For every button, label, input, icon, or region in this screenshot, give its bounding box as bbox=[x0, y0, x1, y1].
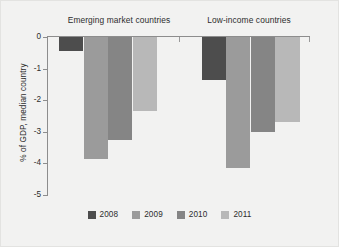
bar-2010-group-2 bbox=[251, 37, 275, 132]
legend-swatch-icon bbox=[221, 211, 229, 219]
y-tick--2: -2 bbox=[47, 100, 51, 101]
bar-2008-group-1 bbox=[59, 37, 83, 51]
y-tick--1: -1 bbox=[47, 69, 51, 70]
bar-2008-group-2 bbox=[202, 37, 226, 80]
y-tick-label: -5 bbox=[34, 190, 41, 199]
legend-swatch-icon bbox=[177, 211, 185, 219]
y-axis-label: % of GDP, median country bbox=[19, 43, 28, 183]
y-tick-mark bbox=[43, 69, 47, 70]
y-tick-label: -1 bbox=[34, 64, 41, 73]
y-tick--3: -3 bbox=[47, 132, 51, 133]
plot-area: 0-1-2-3-4-5 bbox=[47, 37, 310, 195]
legend-item-2011[interactable]: 2011 bbox=[221, 210, 251, 219]
legend-label: 2009 bbox=[144, 210, 163, 219]
y-tick-mark bbox=[43, 100, 47, 101]
bar-2011-group-2 bbox=[275, 37, 299, 122]
y-tick-mark bbox=[43, 132, 47, 133]
group-title-low-income-countries: Low-income countries bbox=[188, 15, 310, 25]
legend-label: 2010 bbox=[189, 210, 208, 219]
legend-swatch-icon bbox=[132, 211, 140, 219]
y-tick-label: -4 bbox=[34, 158, 41, 167]
legend-swatch-icon bbox=[88, 211, 96, 219]
chart-legend: 2008200920102011 bbox=[0, 210, 339, 219]
x-axis-tick-2 bbox=[309, 37, 310, 42]
bar-2009-group-2 bbox=[226, 37, 250, 168]
y-tick-mark bbox=[43, 195, 47, 196]
y-tick--4: -4 bbox=[47, 163, 51, 164]
y-tick-mark bbox=[43, 163, 47, 164]
legend-item-2008[interactable]: 2008 bbox=[88, 210, 119, 219]
legend-label: 2011 bbox=[233, 210, 251, 219]
y-tick--5: -5 bbox=[47, 195, 51, 196]
legend-item-2009[interactable]: 2009 bbox=[132, 210, 163, 219]
bar-2011-group-1 bbox=[133, 37, 157, 111]
y-tick-mark bbox=[43, 37, 47, 38]
bar-2010-group-1 bbox=[108, 37, 132, 140]
group-title-emerging-market-countries: Emerging market countries bbox=[57, 15, 181, 25]
bar-2009-group-1 bbox=[84, 37, 108, 159]
y-tick-label: 0 bbox=[36, 32, 41, 41]
y-tick-label: -3 bbox=[34, 127, 41, 136]
y-tick-label: -2 bbox=[34, 95, 41, 104]
legend-label: 2008 bbox=[100, 210, 119, 219]
x-axis-tick-1 bbox=[179, 37, 180, 42]
y-tick-0: 0 bbox=[47, 37, 51, 38]
chart-figure: Emerging market countries Low-income cou… bbox=[0, 0, 339, 247]
legend-item-2010[interactable]: 2010 bbox=[177, 210, 208, 219]
